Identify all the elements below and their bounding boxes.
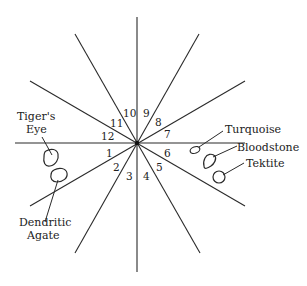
- sector-10: 10: [123, 107, 136, 119]
- sector-7: 7: [164, 128, 171, 140]
- sector-2: 2: [113, 161, 120, 173]
- stone-dendritic-agate: Dendritic Agate: [19, 168, 71, 242]
- bloodstone-leader: [213, 146, 237, 157]
- bloodstone-label: Bloodstone: [237, 141, 299, 154]
- center-point: [135, 141, 139, 145]
- tigers-eye-label-line1: Tiger's: [17, 110, 56, 123]
- gemstone-radial-diagram: 1 2 3 4 5 6 7 8 9 10 11 12 Tiger's Eye D…: [0, 0, 307, 286]
- tigers-eye-stone-icon: [44, 149, 58, 166]
- tektite-label: Tektite: [246, 157, 285, 170]
- turquoise-leader: [199, 131, 223, 147]
- sector-6: 6: [164, 147, 171, 159]
- tigers-eye-label-line2: Eye: [26, 123, 47, 136]
- sector-11: 11: [110, 117, 123, 129]
- turquoise-label: Turquoise: [225, 123, 281, 136]
- dendritic-agate-label-line2: Agate: [26, 229, 59, 242]
- sector-12: 12: [101, 130, 114, 142]
- sector-1: 1: [106, 147, 113, 159]
- dendritic-agate-label-line1: Dendritic: [19, 216, 71, 229]
- stone-tigers-eye: Tiger's Eye: [17, 110, 58, 166]
- sector-5: 5: [156, 161, 163, 173]
- sector-9: 9: [143, 107, 150, 119]
- sector-4: 4: [143, 170, 150, 182]
- sector-8: 8: [155, 116, 162, 128]
- tigers-eye-leader: [42, 137, 52, 155]
- stone-tektite: Tektite: [213, 157, 285, 183]
- tektite-stone-icon: [213, 171, 225, 183]
- sector-3: 3: [126, 170, 133, 182]
- dendritic-agate-stone-icon: [51, 168, 67, 182]
- tektite-leader: [223, 163, 244, 175]
